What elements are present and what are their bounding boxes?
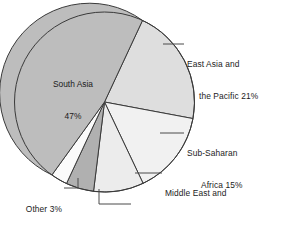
pie-label-south-asia: South Asia 47% bbox=[32, 58, 114, 132]
pie-label-middle-east-line1: Middle East and bbox=[165, 188, 299, 199]
pie-label-other-line1: Other 3% bbox=[0, 204, 62, 215]
pie-label-east-asia-and-the-pacific: East Asia and the Pacific 21% bbox=[187, 38, 299, 112]
pie-label-latin-america-and-caribbean: Latin America and Caribbean 5% bbox=[134, 199, 300, 218]
pie-label-south-asia-line1: South Asia bbox=[32, 79, 114, 90]
pie-label-other: Other 3% bbox=[0, 183, 62, 218]
pie-label-east-asia-line1: East Asia and bbox=[187, 59, 299, 70]
pie-label-sub-saharan-line1: Sub-Saharan bbox=[187, 148, 299, 159]
pie-label-south-asia-line2: 47% bbox=[32, 111, 114, 122]
pie-label-east-asia-line2: the Pacific 21% bbox=[187, 91, 299, 102]
